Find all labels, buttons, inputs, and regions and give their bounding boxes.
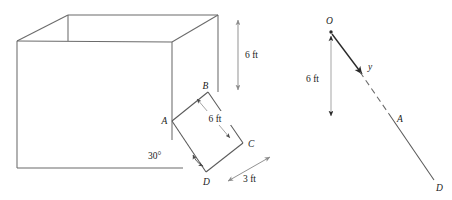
segment-A-D — [389, 114, 434, 180]
angle-30-label: 30° — [148, 151, 162, 161]
label-O: O — [326, 16, 333, 26]
segment-O-A-dashed — [360, 72, 389, 114]
geometry-figure: A B C D 6 ft 30° 6 ft 3 ft — [0, 0, 452, 200]
label-D-right: D — [435, 183, 443, 193]
label-C: C — [248, 139, 255, 149]
label-y: y — [367, 62, 373, 72]
label-A-left: A — [161, 116, 168, 126]
box-rim-left-edge — [17, 15, 68, 41]
hinged-flap — [172, 92, 243, 172]
figure-canvas: A B C D 6 ft 30° 6 ft 3 ft — [0, 0, 452, 200]
flap-edge-C-D — [206, 143, 243, 172]
segment-y-arrow — [332, 34, 362, 74]
label-B: B — [203, 81, 209, 91]
angle-30-degrees: 30° — [148, 151, 203, 166]
label-A-right: A — [396, 114, 403, 124]
flap-width-label: 6 ft — [209, 114, 222, 124]
box-height-dimension: 6 ft — [238, 20, 258, 90]
right-line-diagram: 6 ft O y A D — [306, 16, 443, 193]
box-depth-label: 3 ft — [243, 174, 256, 184]
box-height-label: 6 ft — [245, 50, 258, 60]
label-D-left: D — [202, 177, 210, 187]
flap-edge-A-B — [172, 92, 208, 121]
box-rim-front-edge — [17, 41, 172, 42]
vertical-6ft-label: 6 ft — [306, 74, 319, 84]
box-rim-right-edge — [172, 15, 218, 42]
flap-width-dimension: 6 ft — [197, 99, 231, 138]
box-depth-dimension: 3 ft — [228, 157, 270, 184]
point-O-dot — [329, 30, 332, 33]
